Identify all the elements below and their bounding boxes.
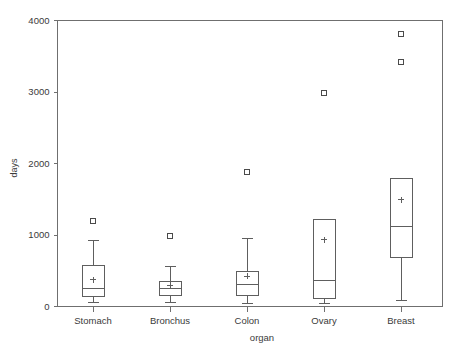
box-iqr bbox=[390, 179, 412, 258]
outlier-marker bbox=[245, 170, 250, 175]
y-axis-ticks: 01000200030004000 bbox=[28, 15, 57, 312]
plot-frame bbox=[58, 21, 443, 307]
y-tick-label: 0 bbox=[44, 301, 49, 312]
outlier-marker bbox=[399, 59, 404, 64]
x-tick-label-bronchus: Bronchus bbox=[150, 315, 190, 326]
boxplot-ovary bbox=[313, 91, 335, 304]
outlier-marker bbox=[322, 91, 327, 96]
boxplot-stomach bbox=[82, 219, 104, 303]
boxplot-colon bbox=[236, 170, 258, 304]
outlier-marker bbox=[91, 219, 96, 224]
boxplot-breast bbox=[390, 31, 412, 300]
x-axis-ticks: StomachBronchusColonOvaryBreast bbox=[74, 307, 415, 326]
x-tick-label-stomach: Stomach bbox=[74, 315, 112, 326]
plot-canvas: 01000200030004000 days StomachBronchusCo… bbox=[0, 0, 464, 355]
y-tick-label: 1000 bbox=[28, 229, 49, 240]
boxplot-bronchus bbox=[159, 234, 181, 303]
y-tick-label: 2000 bbox=[28, 158, 49, 169]
y-axis-title: days bbox=[9, 158, 19, 178]
y-tick-label: 3000 bbox=[28, 86, 49, 97]
box-series bbox=[82, 31, 412, 303]
x-tick-label-breast: Breast bbox=[387, 315, 415, 326]
outlier-marker bbox=[399, 31, 404, 36]
x-axis-title: organ bbox=[250, 332, 274, 343]
box-iqr bbox=[313, 220, 335, 299]
x-tick-label-ovary: Ovary bbox=[311, 315, 337, 326]
boxplot-figure: 01000200030004000 days StomachBronchusCo… bbox=[0, 0, 464, 355]
x-tick-label-colon: Colon bbox=[235, 315, 260, 326]
y-tick-label: 4000 bbox=[28, 15, 49, 26]
outlier-marker bbox=[168, 234, 173, 239]
